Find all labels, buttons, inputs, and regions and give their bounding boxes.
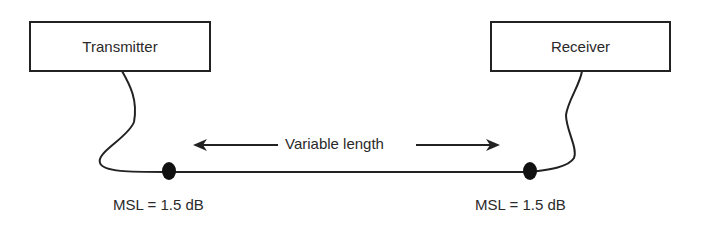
- transmitter-box: Transmitter: [29, 21, 211, 72]
- transmitter-label: Transmitter: [82, 38, 157, 55]
- right-connector-dot: [523, 162, 537, 180]
- left-connector-dot: [162, 162, 176, 180]
- receiver-label: Receiver: [551, 38, 610, 55]
- receiver-lead-cable: [530, 71, 582, 172]
- right-msl-label: MSL = 1.5 dB: [475, 196, 566, 213]
- left-msl-label: MSL = 1.5 dB: [113, 196, 204, 213]
- variable-length-label: Variable length: [285, 135, 384, 152]
- receiver-box: Receiver: [490, 21, 671, 72]
- transmitter-lead-cable: [100, 71, 166, 172]
